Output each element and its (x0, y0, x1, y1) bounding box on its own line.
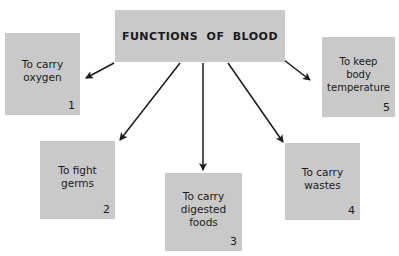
function-box-3: To carry digested foods 3 (165, 173, 242, 251)
arrow-to-function-4 (228, 63, 283, 142)
arrow-to-function-5 (284, 60, 310, 80)
arrow-to-function-1 (86, 63, 114, 78)
function-label: To carry oxygen (22, 58, 63, 84)
function-label: To carry wastes (302, 166, 343, 192)
title-box: FUNCTIONS OF BLOOD (115, 10, 285, 62)
function-number: 3 (230, 235, 237, 248)
function-number: 4 (348, 204, 355, 217)
arrow-to-function-2 (120, 63, 180, 140)
function-box-5: To keep body temperature 5 (322, 37, 395, 117)
function-number: 1 (68, 99, 75, 112)
function-label: To keep body temperature (327, 55, 390, 94)
function-number: 2 (103, 203, 110, 216)
function-number: 5 (383, 101, 390, 114)
function-label: To carry digested foods (181, 190, 226, 229)
function-box-2: To fight germs 2 (40, 141, 115, 219)
function-box-4: To carry wastes 4 (285, 143, 360, 220)
function-label: To fight germs (58, 164, 96, 190)
diagram-title: FUNCTIONS OF BLOOD (122, 30, 278, 43)
function-box-1: To carry oxygen 1 (5, 33, 80, 115)
